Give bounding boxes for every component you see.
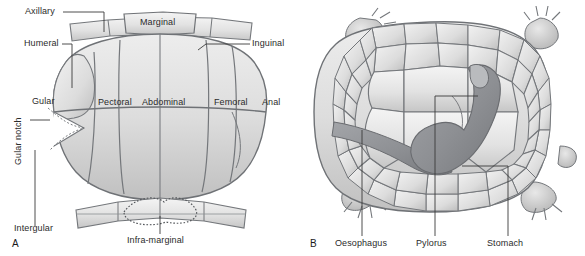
- panel-letter-b: B: [310, 239, 317, 249]
- label-axillary: Axillary: [25, 7, 55, 16]
- panel-letter-a: A: [12, 239, 19, 249]
- label-infra-marginal: Infra-marginal: [127, 236, 184, 245]
- label-intergular: Intergular: [14, 224, 53, 233]
- label-inguinal: Inguinal: [252, 39, 284, 48]
- label-oesophagus: Oesophagus: [335, 239, 387, 248]
- plastron-body: [48, 34, 267, 200]
- label-gular: Gular: [32, 97, 55, 106]
- label-pectoral: Pectoral: [98, 98, 132, 107]
- figure-root: Axillary Humeral Marginal Inguinal Gular…: [0, 0, 585, 256]
- anatomy-illustration: [0, 0, 585, 256]
- tail: [558, 146, 576, 167]
- panel-a-plastron: [30, 12, 267, 234]
- panel-b-carapace: [314, 6, 576, 236]
- label-pylorus: Pylorus: [416, 239, 447, 248]
- label-stomach: Stomach: [487, 239, 523, 248]
- label-gular-notch: Gular notch: [14, 117, 23, 165]
- label-humeral: Humeral: [24, 39, 59, 48]
- label-marginal: Marginal: [140, 18, 175, 27]
- label-abdominal: Abdominal: [142, 98, 185, 107]
- label-anal: Anal: [262, 98, 280, 107]
- label-femoral: Femoral: [214, 98, 248, 107]
- plastron-inframarginal-bridge: [76, 198, 246, 228]
